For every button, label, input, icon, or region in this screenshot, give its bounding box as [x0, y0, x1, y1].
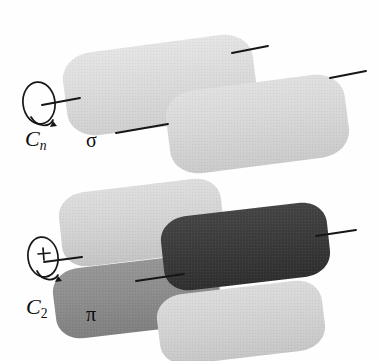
cn-axis-label: Cn	[25, 128, 47, 153]
pi-diagram	[0, 0, 380, 361]
cn-axis-label-base: C	[25, 126, 40, 151]
orbital-symmetry-figure: Cn σ C2 π	[0, 0, 380, 361]
c2-plus-marker	[38, 248, 50, 260]
sigma-orbital-label: σ	[86, 130, 97, 150]
c2-axis-label-base: C	[26, 294, 41, 319]
c2-rotation-axis-symbol	[25, 235, 62, 282]
pi-orbital-label: π	[86, 304, 96, 324]
cn-axis-label-subscript: n	[40, 138, 47, 153]
c2-axis-label-subscript: 2	[41, 306, 48, 321]
c2-axis-label: C2	[26, 296, 48, 321]
